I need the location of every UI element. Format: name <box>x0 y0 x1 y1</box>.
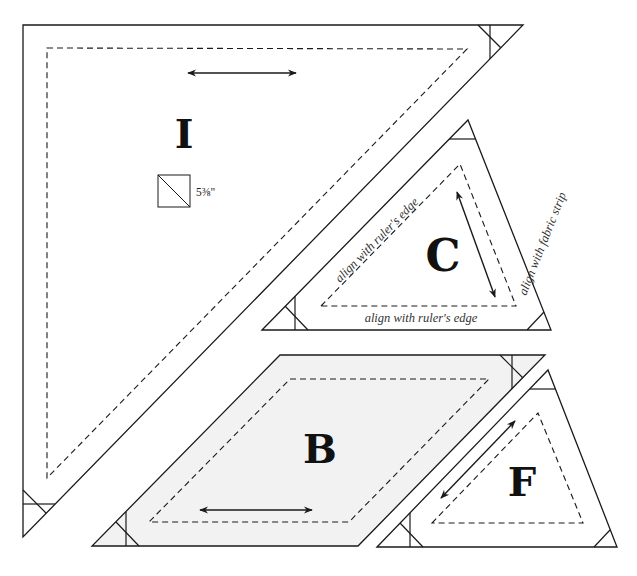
piece-c-guide-right-side: align with fabric strip <box>516 190 569 297</box>
piece-c-seam-line <box>321 164 516 306</box>
piece-b[interactable]: B <box>92 355 545 546</box>
quilt-template-sheet: I 5⅜" C align with ruler's edge align wi… <box>0 0 637 576</box>
piece-c-corner-trim-bottom-right <box>527 312 544 330</box>
piece-c-label: C <box>425 230 460 281</box>
piece-i-label: I <box>175 110 194 157</box>
piece-f-corner-trim-bottom-left <box>400 513 423 547</box>
piece-f-label: F <box>508 458 536 505</box>
piece-c-corner-trim-bottom-left <box>285 296 308 330</box>
piece-c[interactable]: C align with ruler's edge align with rul… <box>262 120 569 330</box>
piece-b-label: B <box>303 425 337 472</box>
grain-arrow-icon <box>457 192 495 297</box>
piece-i-size-label: 5⅜" <box>196 186 215 198</box>
piece-i-corner-trim-top-right <box>478 25 501 59</box>
piece-c-guide-base: align with ruler's edge <box>365 311 478 325</box>
piece-c-cut-line <box>262 120 551 330</box>
piece-f-corner-trim-bottom-right <box>594 530 610 547</box>
half-square-triangle-icon <box>158 175 190 207</box>
piece-c-guide-hypotenuse: align with ruler's edge <box>332 195 421 286</box>
